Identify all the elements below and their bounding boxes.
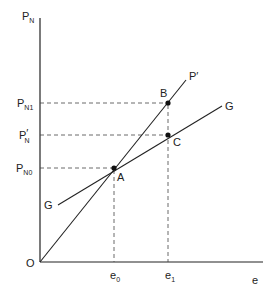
diagram-canvas: PN O e PN1 P′N PN0 e0 e1 A B C P′ G G — [0, 0, 276, 291]
x-axis-label: e — [252, 274, 258, 286]
point-c — [165, 132, 170, 137]
point-b — [165, 100, 170, 105]
tick-e1: e1 — [165, 269, 175, 283]
origin-label: O — [26, 257, 35, 269]
label-b: B — [160, 87, 167, 99]
tick-pn0: PN0 — [16, 162, 32, 176]
economic-diagram: PN O e PN1 P′N PN0 e0 e1 A B C P′ G G — [0, 0, 276, 291]
label-a: A — [117, 171, 125, 183]
label-c: C — [173, 136, 181, 148]
label-g-upper: G — [225, 100, 234, 112]
label-g-lower: G — [44, 199, 53, 211]
curve-p-prime — [40, 80, 186, 262]
y-axis-label: PN — [22, 10, 34, 24]
point-a — [111, 165, 116, 170]
tick-pn-prime: P′N — [19, 127, 29, 144]
tick-pn1: PN1 — [17, 97, 33, 111]
tick-e0: e0 — [110, 269, 120, 283]
curve-g — [58, 106, 222, 205]
label-p-prime: P′ — [189, 70, 198, 82]
